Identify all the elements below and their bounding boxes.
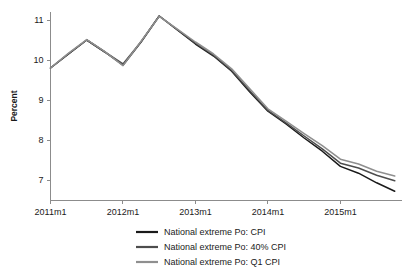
x-tick-label: 2014m1 [252,207,285,217]
y-axis-title: Percent [9,90,19,121]
legend-item-label: National extreme Po: CPI [164,227,266,237]
plot-area [51,12,403,201]
series-line [51,16,395,176]
legend-item-label: National extreme Po: Q1 CPI [164,257,280,267]
x-tick-label: 2013m1 [179,207,212,217]
y-tick-label: 10 [33,55,43,65]
x-tick-label: 2012m1 [107,207,140,217]
y-tick-label: 8 [38,135,43,145]
y-tick-label: 7 [38,175,43,185]
series-lines [51,16,395,191]
y-tick-label: 9 [38,95,43,105]
y-axis-ticks: 7891011 [33,15,50,185]
x-axis-ticks: 2011m12012m12013m12014m12015m1 [35,200,357,217]
y-tick-label: 11 [34,15,43,25]
x-tick-label: 2011m1 [35,207,67,217]
legend-item-label: National extreme Po: 40% CPI [164,242,286,252]
series-line [51,16,395,191]
chart-legend: National extreme Po: CPINational extreme… [136,227,286,267]
x-tick-label: 2015m1 [324,207,357,217]
chart-figure: 7891011 2011m12012m12013m12014m12015m1 P… [0,0,407,279]
series-line [51,16,395,181]
line-chart: 7891011 2011m12012m12013m12014m12015m1 P… [0,0,407,279]
